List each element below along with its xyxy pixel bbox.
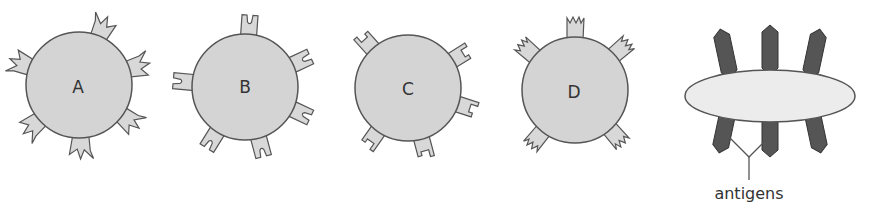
cell-label: B [239,77,251,97]
cell-c: C [354,29,479,159]
cell-label: A [72,77,84,97]
cell-label: C [402,79,414,99]
antibody-antigen-diagram: A B C [0,0,875,214]
bacterium-body [685,70,855,122]
cell-d: D [514,17,635,152]
cell-label: D [567,82,580,102]
antigen-pointer-lines [730,138,768,180]
bacterium: antigens [685,25,855,203]
cell-b: B [173,15,314,159]
cell-a: A [5,12,153,159]
antigens-label: antigens [714,184,783,203]
